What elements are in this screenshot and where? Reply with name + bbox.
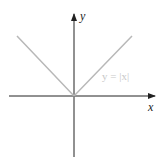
function-label: y = |x|: [102, 70, 129, 82]
x-axis-label: x: [147, 100, 154, 114]
y-axis-label: y: [79, 9, 86, 23]
absolute-value-graph: y x y = |x|: [0, 0, 165, 159]
